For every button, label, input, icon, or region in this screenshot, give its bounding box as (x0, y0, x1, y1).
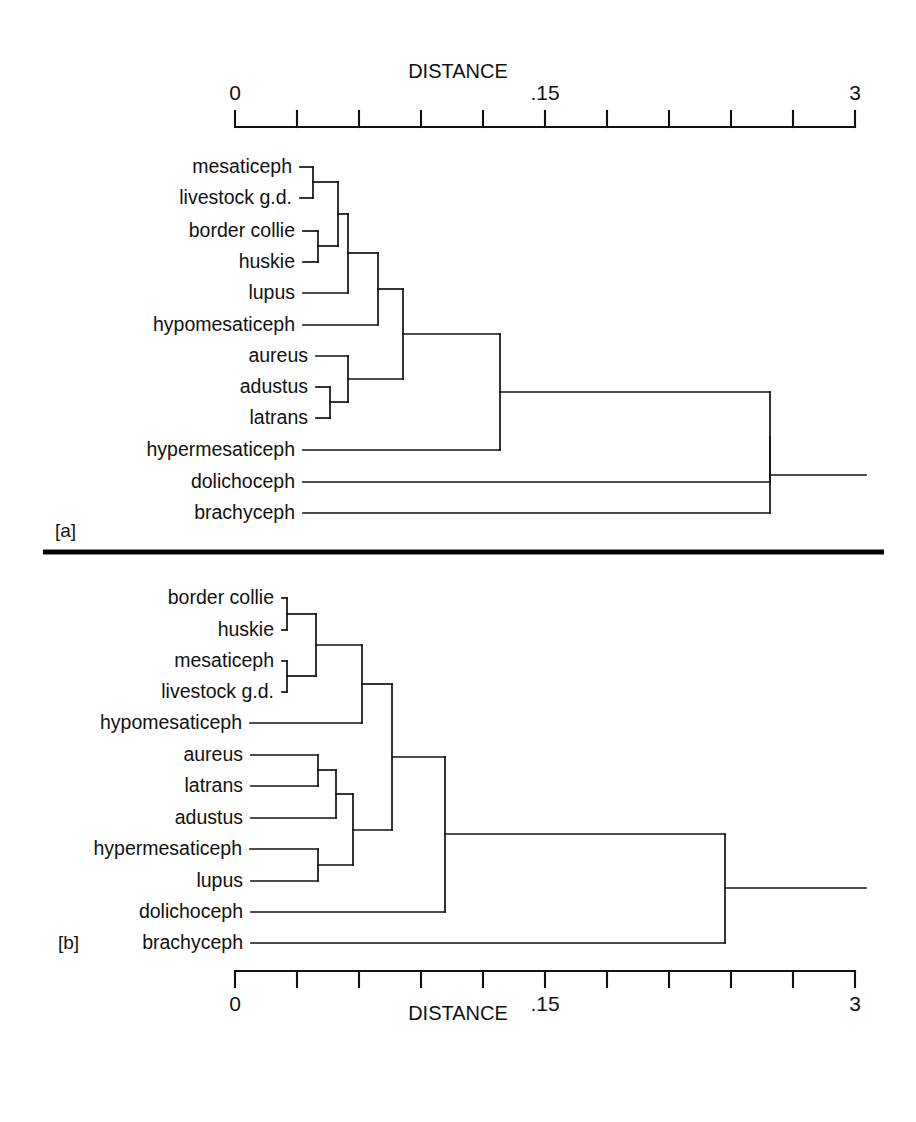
dendrogram-figure: DISTANCE 0.153 mesaticephlivestock g.d.b… (0, 0, 916, 1122)
panel-a-tick-labels: 0.153 (229, 81, 861, 104)
panel-b: border colliehuskiemesaticephlivestock g… (58, 586, 866, 1024)
leaf-label: mesaticeph (192, 155, 292, 177)
panel-a-axis (235, 111, 855, 127)
axis-tick-label: .15 (530, 81, 559, 104)
panel-a-tree (300, 167, 866, 513)
leaf-label: latrans (249, 406, 308, 428)
leaf-label: dolichoceph (139, 900, 243, 922)
axis-tick-label: 0 (229, 81, 241, 104)
panel-a-id-label: [a] (55, 520, 76, 541)
panel-a-axis-title: DISTANCE (408, 60, 508, 82)
panel-a-leaf-labels: mesaticephlivestock g.d.border colliehus… (147, 155, 309, 523)
panel-b-tree (250, 598, 866, 943)
leaf-label: hypomesaticeph (100, 711, 242, 733)
leaf-label: mesaticeph (174, 649, 274, 671)
leaf-label: dolichoceph (191, 470, 295, 492)
leaf-label: hypomesaticeph (153, 313, 295, 335)
leaf-label: hypermesaticeph (94, 837, 243, 859)
panel-b-axis (235, 971, 855, 987)
leaf-label: border collie (168, 586, 274, 608)
leaf-label: lupus (248, 281, 295, 303)
leaf-label: brachyceph (194, 501, 295, 523)
leaf-label: lupus (196, 869, 243, 891)
leaf-label: hypermesaticeph (147, 438, 296, 460)
leaf-label: adustus (175, 806, 244, 828)
leaf-label: aureus (183, 743, 243, 765)
panel-b-leaf-labels: border colliehuskiemesaticephlivestock g… (94, 586, 275, 953)
axis-tick-label: 3 (849, 81, 861, 104)
leaf-label: huskie (239, 250, 295, 272)
leaf-label: adustus (240, 375, 309, 397)
leaf-label: huskie (218, 618, 274, 640)
panel-a: DISTANCE 0.153 mesaticephlivestock g.d.b… (55, 60, 866, 541)
panel-b-axis-title: DISTANCE (408, 1002, 508, 1024)
leaf-label: latrans (184, 774, 243, 796)
leaf-label: livestock g.d. (161, 680, 274, 702)
figure-page: DISTANCE 0.153 mesaticephlivestock g.d.b… (0, 0, 916, 1122)
leaf-label: border collie (189, 219, 295, 241)
axis-tick-label: 0 (229, 992, 241, 1015)
panel-b-id-label: [b] (58, 932, 79, 953)
panel-b-tick-labels: 0.153 (229, 992, 861, 1015)
axis-tick-label: 3 (849, 992, 861, 1015)
leaf-label: aureus (248, 344, 308, 366)
axis-tick-label: .15 (530, 992, 559, 1015)
leaf-label: brachyceph (142, 931, 243, 953)
leaf-label: livestock g.d. (179, 186, 292, 208)
